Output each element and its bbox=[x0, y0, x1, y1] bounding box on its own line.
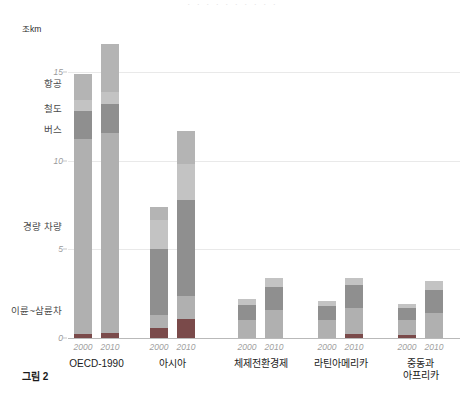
figure-caption: 그림 2 bbox=[22, 368, 48, 383]
bar[interactable] bbox=[150, 207, 168, 338]
x-axis-line bbox=[68, 338, 460, 339]
bar-segment bbox=[177, 131, 195, 165]
bar[interactable] bbox=[74, 74, 92, 338]
gridline bbox=[68, 249, 460, 250]
bar-segment bbox=[101, 133, 119, 333]
figure-container: · · · · · · · · · · 조km 051015 항공철도버스경량 … bbox=[0, 0, 465, 398]
bar-segment bbox=[265, 287, 283, 310]
mode-label-aviation: 항공 bbox=[44, 76, 62, 90]
bar-segment bbox=[150, 328, 168, 338]
mode-label-bus: 버스 bbox=[44, 122, 62, 136]
bar-segment bbox=[425, 290, 443, 313]
y-axis-unit-label: 조km bbox=[22, 22, 41, 34]
bar-segment bbox=[150, 220, 168, 249]
y-tick-label: 0 bbox=[58, 333, 63, 343]
bar[interactable] bbox=[398, 304, 416, 338]
gridline bbox=[68, 72, 460, 73]
bar-segment bbox=[101, 104, 119, 132]
bar[interactable] bbox=[177, 131, 195, 338]
x-year-label: 2010 bbox=[257, 342, 291, 352]
bar-segment bbox=[74, 111, 92, 138]
bar-segment bbox=[177, 164, 195, 199]
bar-segment bbox=[177, 200, 195, 296]
bar[interactable] bbox=[101, 44, 119, 338]
bar[interactable] bbox=[238, 299, 256, 338]
bar-segment bbox=[238, 320, 256, 338]
y-tick-mark bbox=[63, 160, 67, 161]
bar-segment bbox=[150, 315, 168, 328]
bar-segment bbox=[101, 333, 119, 338]
bar[interactable] bbox=[318, 301, 336, 338]
bar-segment bbox=[318, 320, 336, 338]
bar-segment bbox=[101, 44, 119, 92]
x-group-label: OECD-1990 bbox=[69, 358, 123, 370]
x-year-label: 2010 bbox=[93, 342, 127, 352]
bar-segment bbox=[74, 100, 92, 112]
bar-segment bbox=[345, 285, 363, 308]
bar-segment bbox=[265, 310, 283, 338]
bar-segment bbox=[398, 320, 416, 335]
bar-segment bbox=[238, 299, 256, 305]
bar-segment bbox=[177, 319, 195, 338]
mode-label-two_three_wheeler: 이륜~삼륜차 bbox=[11, 303, 62, 317]
bar-segment bbox=[265, 278, 283, 287]
bar-segment bbox=[345, 278, 363, 285]
bar-segment bbox=[345, 308, 363, 335]
plot-area: 051015 항공철도버스경량 차량이륜~삼륜차 20002010OECD-19… bbox=[68, 28, 460, 338]
mode-label-rail: 철도 bbox=[44, 101, 62, 115]
x-group-label: 라틴아메리카 bbox=[314, 358, 368, 370]
bar-segment bbox=[425, 313, 443, 338]
bar-segment bbox=[318, 306, 336, 320]
x-group-label: 중동과 아프리카 bbox=[403, 358, 439, 382]
bar-segment bbox=[74, 139, 92, 334]
bar[interactable] bbox=[265, 278, 283, 338]
bar-segment bbox=[318, 301, 336, 306]
x-group-label: 아시아 bbox=[159, 358, 186, 370]
bar-segment bbox=[74, 334, 92, 338]
mode-label-light_vehicle: 경량 차량 bbox=[23, 219, 62, 233]
y-tick-label: 5 bbox=[58, 244, 63, 254]
bar-segment bbox=[345, 334, 363, 338]
y-tick-label: 10 bbox=[54, 156, 63, 166]
top-clipped-text: · · · · · · · · · · bbox=[0, 0, 465, 8]
x-year-label: 2010 bbox=[417, 342, 451, 352]
x-year-label: 2010 bbox=[337, 342, 371, 352]
bar[interactable] bbox=[425, 281, 443, 338]
bar-segment bbox=[425, 281, 443, 290]
bar-segment bbox=[398, 308, 416, 320]
bar-segment bbox=[150, 207, 168, 220]
bar-segment bbox=[177, 296, 195, 319]
y-tick-mark bbox=[63, 338, 67, 339]
y-tick-mark bbox=[63, 72, 67, 73]
bar-segment bbox=[101, 92, 119, 104]
bar-segment bbox=[398, 335, 416, 338]
bar-segment bbox=[398, 304, 416, 308]
bar-segment bbox=[150, 249, 168, 315]
x-group-label: 체제전환경제 bbox=[234, 358, 288, 370]
bar[interactable] bbox=[345, 278, 363, 338]
gridline bbox=[68, 161, 460, 162]
bar-segment bbox=[238, 305, 256, 320]
bar-segment bbox=[74, 74, 92, 100]
x-year-label: 2010 bbox=[169, 342, 203, 352]
y-tick-mark bbox=[63, 249, 67, 250]
